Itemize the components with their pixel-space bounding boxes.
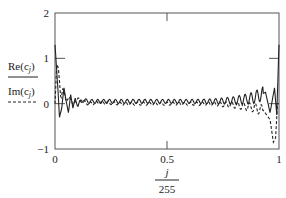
plot-frame [55, 13, 279, 149]
x-axis-title-denominator: 255 [159, 183, 176, 195]
x-axis-title-numerator: j [163, 166, 168, 178]
y-tick-label: 0 [44, 98, 50, 110]
line-chart: −1012 00.51 Re(cj) Im(cj) j 255 [0, 0, 286, 198]
series-re-line [55, 45, 279, 118]
y-tick-label: 2 [44, 7, 50, 19]
y-tick-label: 1 [44, 52, 50, 64]
x-tick-label: 1 [276, 153, 282, 165]
plot-area [55, 45, 279, 143]
legend: Re(cj) Im(cj) [8, 60, 38, 102]
legend-item-re: Re(cj) [8, 60, 35, 74]
x-axis-ticks: 00.51 [52, 13, 282, 165]
y-axis-ticks: −1012 [37, 7, 279, 155]
y-tick-label: −1 [37, 143, 49, 155]
x-tick-label: 0 [52, 153, 58, 165]
x-axis-title: j 255 [155, 166, 179, 195]
x-tick-label: 0.5 [160, 153, 174, 165]
legend-item-im: Im(cj) [8, 85, 35, 99]
